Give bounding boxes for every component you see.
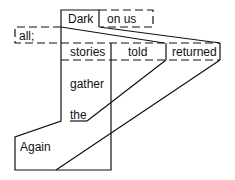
connector-line <box>61 27 164 43</box>
word-dark: Dark <box>68 12 94 26</box>
word-gather: gather <box>70 77 104 91</box>
word-all: all; <box>19 29 34 43</box>
word-on-us: on us <box>107 12 136 26</box>
word-told: told <box>128 45 147 59</box>
word-stories: stories <box>70 45 105 59</box>
sentence-diagram: Dark on us all; stories told returned ga… <box>0 0 235 180</box>
word-again: Again <box>20 140 51 154</box>
word-returned: returned <box>172 45 217 59</box>
connector-line <box>99 27 220 43</box>
word-the: the <box>70 108 87 122</box>
